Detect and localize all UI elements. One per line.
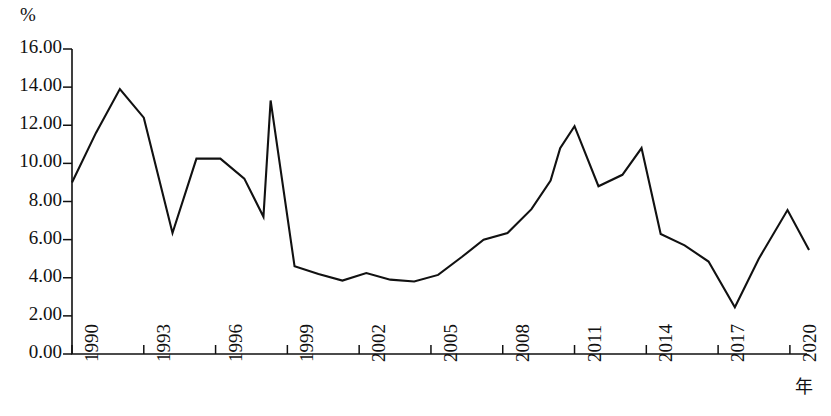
plot-area — [0, 0, 831, 416]
data-series-line — [72, 89, 809, 307]
axes — [63, 49, 807, 354]
y-axis-ticks — [63, 49, 72, 354]
line-chart: % 年 0.002.004.006.008.0010.0012.0014.001… — [0, 0, 831, 416]
x-axis-ticks — [72, 345, 790, 354]
